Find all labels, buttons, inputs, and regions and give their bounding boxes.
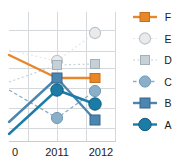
legend-label-A: A <box>164 119 171 131</box>
legend-marker-C <box>139 76 150 87</box>
legend-label-B: B <box>164 97 171 109</box>
data-point-F-2012 <box>90 74 100 83</box>
data-point-D-2011 <box>53 61 62 70</box>
legend-marker-A <box>139 118 151 130</box>
x-tick-label-2012: 2012 <box>89 146 113 158</box>
legend-label-C: C <box>164 76 172 88</box>
chart-container: 0 2011 2012 F E D <box>0 0 190 164</box>
legend-marker-D <box>141 56 150 65</box>
data-point-C-2012 <box>89 85 100 96</box>
legend-marker-B <box>140 98 150 108</box>
x-tick-label-2011: 2011 <box>45 146 69 158</box>
data-point-D-2012 <box>91 60 100 69</box>
data-point-C-2011 <box>51 112 62 123</box>
series-markers-F <box>90 74 100 83</box>
legend-label-E: E <box>164 33 171 45</box>
data-point-B-2012 <box>90 115 100 125</box>
legend-marker-F <box>140 13 150 22</box>
data-point-E-2012 <box>89 27 100 38</box>
data-point-B-2011 <box>52 73 62 83</box>
line-chart: 0 2011 2012 F E D <box>0 0 190 164</box>
x-tick-label-0: 0 <box>12 146 18 158</box>
data-point-A-2012 <box>89 98 101 110</box>
data-point-A-2011 <box>51 84 63 96</box>
legend-marker-E <box>139 33 150 44</box>
legend-label-F: F <box>165 11 171 23</box>
legend-label-D: D <box>164 54 172 66</box>
